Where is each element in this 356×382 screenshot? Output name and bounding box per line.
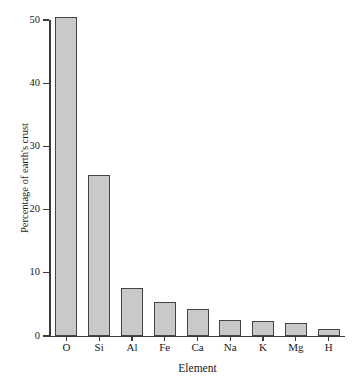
x-axis-title: Element — [50, 362, 345, 375]
y-axis-tick — [43, 19, 49, 20]
plot-area — [50, 20, 345, 336]
y-axis-tick — [43, 83, 49, 84]
bar-mg — [285, 323, 307, 336]
y-axis-tick — [43, 335, 49, 336]
x-axis-tick-label: H — [309, 341, 349, 354]
bar-si — [88, 175, 110, 336]
bar-chart-figure: 01020304050 Percentage of earth's crust … — [0, 0, 356, 382]
y-axis-tick — [43, 272, 49, 273]
y-axis-tick — [43, 146, 49, 147]
bar-o — [55, 17, 77, 336]
bar-na — [219, 320, 241, 336]
bar-fe — [154, 302, 176, 336]
bar-ca — [187, 309, 209, 336]
y-axis-tick — [43, 209, 49, 210]
bar-al — [121, 288, 143, 336]
bar-k — [252, 321, 274, 336]
bar-h — [318, 329, 340, 336]
y-axis-title: Percentage of earth's crust — [18, 20, 32, 336]
